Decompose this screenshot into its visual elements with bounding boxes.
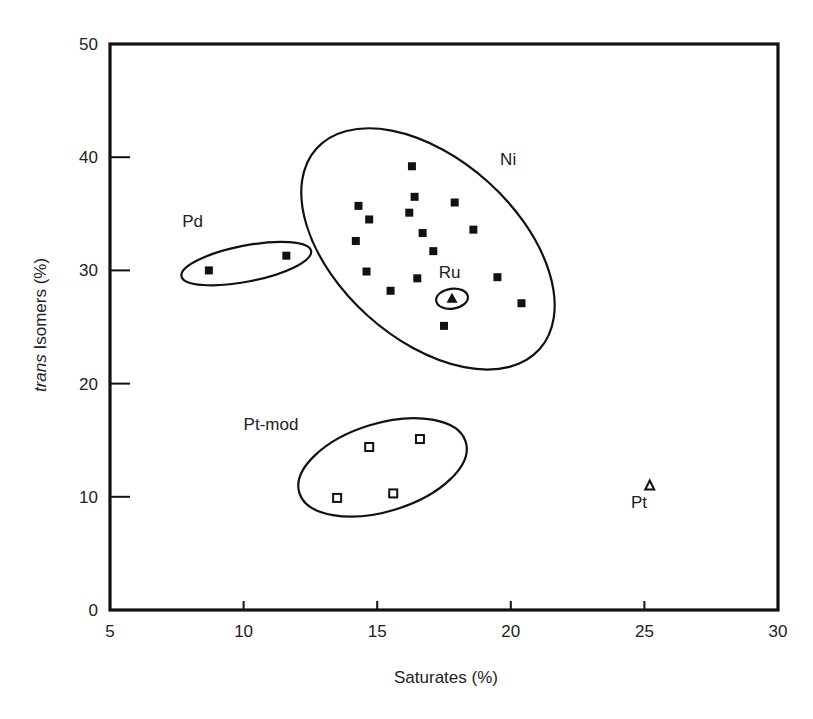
x-tick-label: 25 [635, 622, 654, 641]
pt-mod-point [365, 443, 373, 451]
group-labels: NiRuPdPt-modPt [182, 150, 647, 512]
ni-point [352, 237, 360, 245]
x-tick-label: 15 [368, 622, 387, 641]
pd-point [205, 266, 213, 274]
pt-point [645, 480, 654, 489]
label-pd: Pd [182, 212, 203, 231]
ni-point [411, 193, 419, 201]
x-axis-title: Saturates (%) [394, 668, 498, 687]
y-tick-label: 20 [79, 375, 98, 394]
x-axis-ticks: 51015202530 [105, 601, 787, 641]
x-tick-label: 10 [234, 622, 253, 641]
y-axis-title-rest: Isomers (%) [31, 258, 50, 354]
ni-point [451, 198, 459, 206]
pd-point [282, 252, 290, 260]
enclosure-ni-ellipse [256, 82, 599, 417]
y-tick-label: 0 [89, 601, 98, 620]
ni-point [493, 273, 501, 281]
pt-mod-point [416, 435, 424, 443]
label-pt-mod: Pt-mod [244, 415, 299, 434]
label-ni: Ni [500, 150, 516, 169]
x-tick-label: 30 [769, 622, 788, 641]
label-ru: Ru [439, 263, 461, 282]
y-tick-label: 50 [79, 35, 98, 54]
x-tick-label: 20 [501, 622, 520, 641]
label-pt: Pt [631, 493, 647, 512]
enclosure-pd-ellipse [178, 233, 314, 294]
y-tick-label: 40 [79, 148, 98, 167]
ni-point [413, 274, 421, 282]
ni-point [419, 229, 427, 237]
ni-point [365, 215, 373, 223]
y-tick-label: 30 [79, 261, 98, 280]
ni-point [387, 287, 395, 295]
ni-point [440, 322, 448, 330]
enclosure-pt-mod-ellipse [286, 400, 478, 535]
y-axis-ticks: 01020304050 [79, 35, 130, 620]
scatter-chart: 51015202530 01020304050 NiRuPdPt-modPt S… [0, 0, 813, 719]
y-tick-label: 10 [79, 488, 98, 507]
pt-mod-point [389, 489, 397, 497]
x-tick-label: 5 [105, 622, 114, 641]
ni-point [408, 162, 416, 170]
ni-point [363, 268, 371, 276]
ni-point [405, 209, 413, 217]
group-enclosures [178, 82, 600, 535]
ni-point [517, 299, 525, 307]
ru-point [447, 293, 458, 303]
y-axis-title-italic: trans [31, 354, 50, 392]
ni-point [429, 247, 437, 255]
pt-mod-point [333, 494, 341, 502]
y-axis-title: trans Isomers (%) [31, 258, 50, 392]
data-markers [205, 162, 654, 502]
ni-point [469, 226, 477, 234]
ni-point [354, 202, 362, 210]
